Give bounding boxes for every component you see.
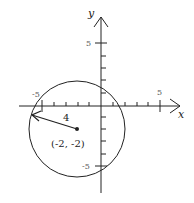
x-tick-label-neg5: -5 bbox=[32, 90, 40, 99]
y-axis-label: y bbox=[87, 7, 95, 20]
radius-line bbox=[32, 115, 77, 129]
y-tick-label-neg5: -5 bbox=[82, 162, 90, 171]
radius-label: 4 bbox=[63, 112, 69, 123]
x-axis-label: x bbox=[178, 108, 185, 121]
coordinate-plane: x y -5 5 5 -5 4 (-2, -2) bbox=[0, 0, 194, 203]
x-tick-label-pos5: 5 bbox=[157, 88, 162, 97]
center-label: (-2, -2) bbox=[51, 138, 85, 149]
center-point bbox=[75, 127, 79, 131]
y-tick-label-pos5: 5 bbox=[86, 39, 91, 48]
